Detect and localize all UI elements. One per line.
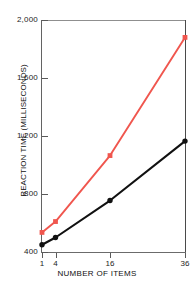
black-series-line	[42, 141, 185, 245]
data-series-layer	[0, 0, 194, 281]
black-series-point	[53, 235, 58, 240]
black-series-point	[107, 198, 112, 203]
black-series-point	[39, 242, 44, 247]
red-series-point	[53, 219, 58, 224]
red-series-point	[108, 153, 113, 158]
red-series-point	[40, 230, 45, 235]
black-series-point	[182, 138, 187, 143]
red-series-line	[42, 37, 185, 232]
x-axis-title: NUMBER OF ITEMS	[0, 269, 194, 278]
red-series-point	[183, 35, 188, 40]
chart-figure: 4008001,2001,6002,000 141636 REACTION TI…	[0, 0, 194, 281]
y-axis-title: REACTION TIME (MILLISECONDS)	[19, 51, 28, 211]
